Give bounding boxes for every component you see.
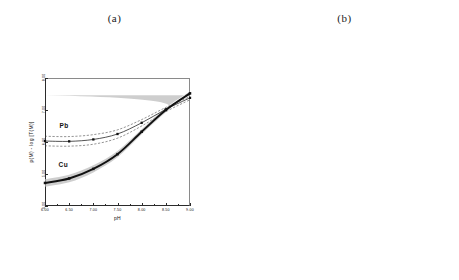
- panel-a-plot: [45, 78, 190, 206]
- x-minor-tick: [130, 204, 131, 206]
- panel-a: (a) pH p(M) - log [T(M)] Pb Cu 6.006.507…: [0, 0, 229, 280]
- panel-b-caption: (b): [230, 12, 459, 24]
- x-tick-label: 8.50: [162, 208, 170, 212]
- panel-a-series-label-pb: Pb: [60, 122, 69, 129]
- panel-b: (b) pH pM/pH Slope Cu Pb 6.006.507.007.5…: [230, 0, 459, 280]
- x-minor-tick: [81, 204, 82, 206]
- x-minor-tick: [178, 204, 179, 206]
- x-tick-label: 7.50: [114, 208, 122, 212]
- y-tick-label: 6.00: [42, 138, 46, 147]
- x-tick-mark: [190, 203, 191, 206]
- x-tick-label: 8.00: [138, 208, 146, 212]
- x-tick-mark: [118, 203, 119, 206]
- panel-a-y-axis-title: p(M) - log [T(M)]: [28, 92, 34, 192]
- y-tick-label: 4.00: [42, 202, 46, 211]
- y-tick-label: 7.00: [42, 106, 46, 115]
- y-tick-label: 8.00: [42, 74, 46, 83]
- x-tick-mark: [166, 203, 167, 206]
- x-tick-label: 7.00: [89, 208, 97, 212]
- y-tick-label: 5.00: [42, 170, 46, 179]
- x-minor-tick: [154, 204, 155, 206]
- x-tick-mark: [69, 203, 70, 206]
- x-tick-mark: [142, 203, 143, 206]
- x-minor-tick: [57, 204, 58, 206]
- x-tick-label: 9.00: [186, 208, 194, 212]
- panel-a-series-label-cu: Cu: [59, 161, 68, 168]
- panel-a-x-axis-title: pH: [114, 215, 121, 221]
- figure-root: (a) pH p(M) - log [T(M)] Pb Cu 6.006.507…: [0, 0, 459, 280]
- x-minor-tick: [105, 204, 106, 206]
- x-tick-label: 6.50: [65, 208, 73, 212]
- x-tick-mark: [93, 203, 94, 206]
- panel-a-caption: (a): [0, 12, 229, 24]
- panel-a-curves: [45, 78, 190, 206]
